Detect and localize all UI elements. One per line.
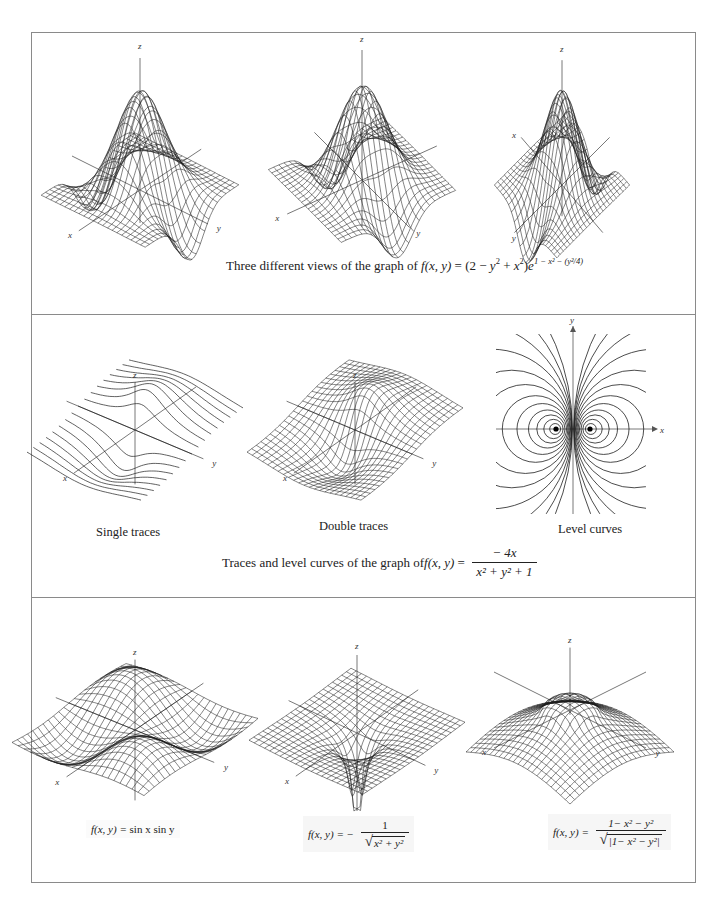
y-axis-label: y — [211, 458, 216, 468]
mesh-line — [540, 160, 613, 245]
mesh-line — [40, 443, 154, 491]
surface-plot-view-2: xyz — [260, 40, 470, 255]
mesh-line — [117, 169, 211, 233]
y-axis-label: y — [433, 765, 438, 775]
y-axis-label: y — [216, 223, 221, 233]
denominator: x² + y² + 1 — [472, 562, 536, 580]
mesh-line — [272, 121, 386, 189]
mesh-line — [485, 735, 589, 787]
mesh-line — [59, 426, 173, 477]
x-axis-label: x — [659, 425, 664, 435]
y-arrow-icon — [570, 326, 576, 332]
single-traces-plot: xyz — [40, 322, 240, 517]
panel-divider-2 — [31, 597, 696, 598]
surface-plot-view-3: xyz — [470, 40, 670, 250]
mesh-line — [300, 150, 373, 235]
fraction: 1 √x² + y² — [361, 819, 410, 849]
mesh-line — [513, 694, 617, 762]
fraction: 1− x² − y² √|1− x² − y²| — [596, 817, 666, 847]
mesh-line — [91, 390, 205, 441]
mesh-line — [67, 162, 171, 238]
subcaption-single-traces: Single traces — [96, 525, 160, 540]
y-axis-label: y — [415, 228, 420, 238]
formula-rhs: sin x sin y — [130, 823, 175, 835]
mesh-line — [84, 97, 188, 260]
numerator: − 4x — [488, 545, 520, 562]
mesh-line — [254, 737, 368, 791]
mesh-line — [346, 398, 448, 496]
mesh-line — [363, 722, 465, 794]
mesh-line — [110, 375, 224, 423]
y-axis-label: y — [655, 748, 660, 758]
mesh-line — [53, 432, 167, 480]
mesh-line — [523, 90, 596, 256]
mesh-line — [84, 101, 178, 216]
z-axis-label: z — [354, 641, 359, 651]
z-axis-label: z — [132, 647, 137, 657]
inverse-sqrt-surface-plot: xyz — [262, 625, 462, 820]
x-arrow-icon — [652, 426, 658, 432]
mesh-line — [328, 686, 442, 740]
mesh-line — [104, 380, 218, 428]
x-axis-label: x — [274, 213, 279, 223]
x-axis-label: x — [511, 130, 516, 140]
surface-plot-view-1: xyz — [40, 40, 260, 250]
top-caption: Three different views of the graph of f(… — [226, 256, 583, 274]
mesh-line — [254, 671, 356, 743]
denominator: √|1− x² − y²| — [596, 830, 666, 847]
mesh-line — [346, 672, 460, 726]
subcaption-level-curves: Level curves — [558, 522, 622, 537]
middle-caption: Traces and level curves of the graph of … — [222, 545, 537, 580]
z-axis-label: z — [559, 44, 564, 54]
y-axis-label: y — [569, 315, 574, 325]
mesh-line — [272, 725, 386, 779]
caption-plus: + — [500, 258, 514, 273]
panel-divider-1 — [31, 314, 696, 315]
mesh-line — [72, 413, 186, 461]
caption-text: Three different views of the graph of — [226, 258, 421, 273]
mesh-line — [335, 392, 437, 494]
mesh-line — [138, 717, 252, 793]
caption-text: Traces and level curves of the graph of — [222, 555, 424, 571]
level-curves-plot: xy — [496, 326, 671, 516]
focus-point-right — [587, 426, 592, 431]
mesh-line — [570, 752, 674, 804]
formula-sin-sin: f(x, y) = sin x sin y — [86, 820, 180, 838]
y-axis-label: y — [431, 458, 436, 468]
z-axis-label: z — [132, 370, 137, 380]
y-axis-label: y — [511, 233, 516, 243]
formula-inverse-sqrt: f(x, y) = − 1 √x² + y² — [303, 816, 414, 852]
radicand: |1− x² − y²| — [607, 834, 662, 847]
y-axis-label: y — [223, 762, 228, 772]
x-axis-label: x — [67, 230, 72, 240]
numerator: 1− x² − y² — [604, 817, 657, 830]
mesh-line — [311, 108, 425, 213]
z-axis-label: z — [359, 34, 364, 44]
caption-eq: = (2 − — [451, 258, 490, 273]
mesh-line — [570, 700, 674, 752]
z-axis-label: z — [567, 635, 572, 645]
formula-lhs: f(x, y) = — [91, 823, 130, 835]
mesh-line — [333, 682, 447, 736]
function-name: f(x, y) — [421, 258, 451, 273]
focus-point-left — [553, 426, 558, 431]
mesh-line — [341, 101, 414, 231]
caption-eq: = — [454, 555, 468, 571]
mesh-line — [551, 735, 655, 787]
capped-surface-plot: xyz — [490, 625, 690, 810]
x-axis-label: x — [284, 776, 289, 786]
denominator: √x² + y² — [361, 832, 410, 849]
radicand: x² + y² — [372, 836, 405, 849]
z-axis-label: z — [137, 41, 142, 51]
x-axis-label: x — [54, 777, 59, 787]
mesh-line — [97, 384, 211, 435]
mesh-line — [263, 731, 377, 785]
mesh-line — [561, 119, 623, 194]
sin-sin-surface-plot: xyz — [40, 625, 260, 815]
mesh-line — [118, 145, 222, 197]
mesh-line — [509, 132, 582, 205]
function-name: f(x, y) — [424, 555, 454, 571]
double-traces-plot: xyz — [260, 322, 460, 517]
mesh-line — [565, 748, 669, 800]
subcaption-double-traces: Double traces — [319, 519, 388, 534]
